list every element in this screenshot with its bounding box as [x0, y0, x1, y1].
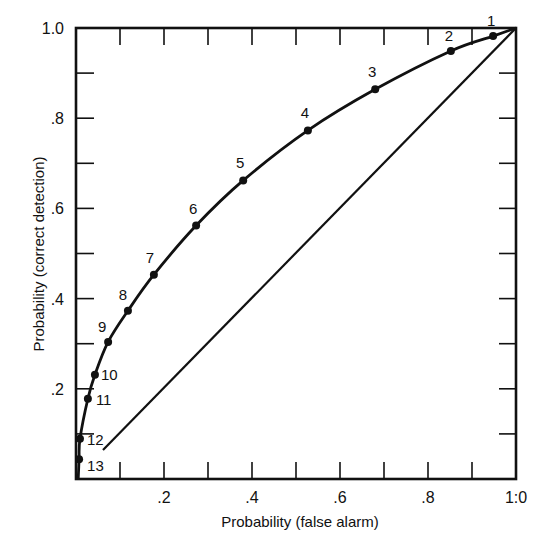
roc-point-marker: [124, 307, 132, 315]
roc-point-marker: [192, 222, 200, 230]
x-axis-title: Probability (false alarm): [221, 513, 379, 530]
y-tick-label: .8: [51, 110, 64, 127]
roc-point-label: 13: [87, 457, 104, 474]
roc-point-label: 10: [101, 366, 118, 383]
roc-point-label: 4: [301, 104, 309, 121]
x-tick-label: 1:0: [505, 489, 527, 506]
roc-point-marker: [76, 435, 84, 443]
roc-point-label: 12: [87, 431, 104, 448]
roc-point-marker: [75, 455, 83, 463]
x-tick-label: .6: [333, 489, 346, 506]
roc-curve-markers: [75, 32, 497, 463]
roc-chart: .2.4.6.81:0.2.4.6.81.0 12345678910111213…: [0, 0, 544, 547]
chance-diagonal-line: [103, 28, 516, 450]
roc-point-marker: [447, 47, 455, 55]
roc-point-label: 11: [96, 391, 112, 408]
roc-point-label: 7: [146, 249, 154, 266]
x-tick-label: .4: [245, 489, 258, 506]
roc-point-label: 8: [119, 286, 127, 303]
roc-point-label: 3: [368, 63, 376, 80]
y-tick-label: .4: [51, 291, 64, 308]
x-tick-label: .8: [421, 489, 434, 506]
y-tick-label: .2: [51, 381, 64, 398]
roc-point-marker: [371, 85, 379, 93]
roc-point-marker: [239, 176, 247, 184]
y-tick-label: .6: [51, 200, 64, 217]
roc-point-label: 1: [487, 12, 495, 29]
roc-point-marker: [489, 32, 497, 40]
diagonal-line: [103, 28, 516, 450]
roc-point-label: 9: [98, 318, 106, 335]
roc-point-marker: [304, 126, 312, 134]
x-tick-label: .2: [157, 489, 170, 506]
roc-point-label: 5: [236, 154, 244, 171]
roc-point-marker: [104, 338, 112, 346]
y-tick-label: 1.0: [42, 20, 64, 37]
roc-point-marker: [84, 395, 92, 403]
roc-point-marker: [150, 271, 158, 279]
roc-point-label: 2: [445, 27, 453, 44]
roc-point-marker: [91, 371, 99, 379]
roc-point-label: 6: [189, 200, 197, 217]
y-axis-title: Probability (correct detection): [30, 156, 47, 351]
